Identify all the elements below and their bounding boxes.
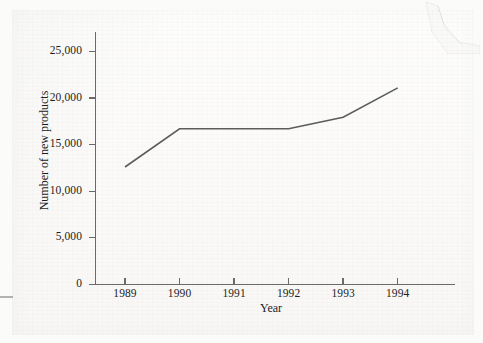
scanned-chart-page: 05,00010,00015,00020,00025,000 198919901… <box>0 0 483 343</box>
x-axis-title: Year <box>243 301 299 316</box>
line-chart: 05,00010,00015,00020,00025,000 198919901… <box>0 0 483 343</box>
data-line-number-of-new-products <box>125 88 398 167</box>
y-axis-title: Number of new products <box>37 71 52 231</box>
series-layer <box>0 0 483 343</box>
